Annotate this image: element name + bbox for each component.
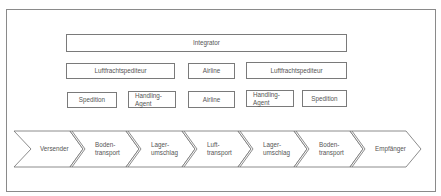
chevron-label-versender: Versender: [40, 145, 69, 153]
chevron-label-empfaenger: Empfänger: [375, 145, 406, 153]
chevron-label-lufttransport: Luft- transport: [207, 141, 232, 156]
process-chain-chevrons: [0, 0, 441, 196]
chevron-label-bodentransport-1: Boden- transport: [95, 141, 120, 156]
chevron-label-bodentransport-2: Boden- transport: [319, 141, 344, 156]
chevron-label-lagerumschlag-1: Lager- umschlag: [151, 141, 178, 156]
chevron-label-lagerumschlag-2: Lager- umschlag: [263, 141, 290, 156]
